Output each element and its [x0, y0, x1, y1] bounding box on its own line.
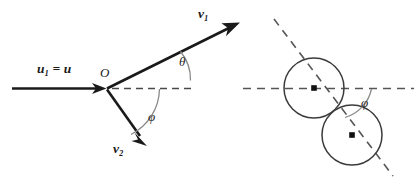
sphere-lower-right-center-dot — [349, 132, 355, 138]
line-of-centers — [274, 19, 393, 176]
label-outgoing-v2: v₂ — [113, 141, 124, 156]
physics-diagram-canvas: u₁ = u v₁ v₂ O θ φ — [0, 0, 418, 189]
label-angle-phi-left: φ — [148, 109, 155, 124]
left-panel-group: u₁ = u v₁ v₂ O θ φ — [12, 6, 240, 156]
label-angle-phi-right: φ — [361, 95, 368, 110]
right-panel-group: φ — [243, 19, 414, 176]
label-incoming-u1: u₁ = u — [37, 61, 72, 76]
outgoing-vector-v2-shaft — [107, 90, 140, 137]
label-v2-text: v₂ — [113, 141, 124, 156]
figure-root: u₁ = u v₁ v₂ O θ φ — [0, 0, 418, 189]
label-angle-theta: θ — [179, 54, 186, 69]
sphere-upper-left-center-dot — [311, 85, 317, 91]
label-outgoing-v1: v₁ — [198, 6, 209, 21]
outgoing-vector-v1-shaft — [107, 27, 231, 89]
label-v1-text: v₁ — [198, 6, 209, 21]
label-u1-text: u₁ = u — [37, 61, 72, 76]
label-origin-O: O — [100, 65, 110, 80]
